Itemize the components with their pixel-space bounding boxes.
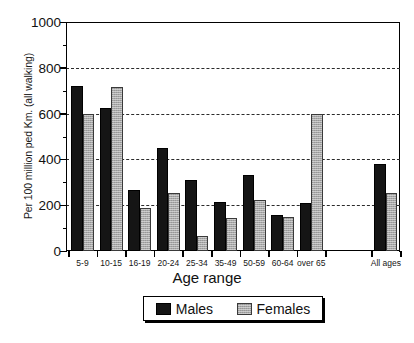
y-axis-tick-label: 200 [38, 198, 61, 213]
bar-males-25-34 [185, 180, 197, 251]
bar-males-16-19 [128, 190, 140, 251]
x-axis-tick [297, 251, 299, 257]
bar-males-5-9 [71, 86, 83, 251]
bars-layer [66, 22, 400, 251]
x-axis-tick [154, 251, 156, 257]
x-axis-tick [68, 251, 70, 257]
x-axis-label-over-65: over 65 [297, 258, 325, 268]
y-axis-tick-label: 400 [38, 152, 61, 167]
x-axis-label-35-49: 35-49 [215, 258, 237, 268]
bar-females-16-19 [140, 208, 152, 251]
y-axis-tick-label: 1000 [31, 15, 61, 30]
bar-chart-figure: Per 100 million ped Km. (all walking) 02… [0, 0, 414, 343]
bar-females-All-ages [386, 193, 398, 251]
bar-males-50-59 [243, 175, 255, 251]
x-axis-tick [325, 251, 327, 257]
x-axis-tick [240, 251, 242, 257]
bar-males-20-24 [157, 148, 169, 251]
x-axis-label-50-59: 50-59 [243, 258, 265, 268]
females-swatch-icon [237, 303, 252, 315]
bar-females-10-15 [111, 87, 123, 251]
y-axis-tick-label: 800 [38, 60, 61, 75]
bar-females-60-64 [283, 217, 295, 251]
bar-females-25-34 [197, 236, 209, 251]
bar-females-35-49 [226, 218, 238, 251]
x-axis-label-All-ages: All ages [371, 258, 401, 268]
males-swatch-icon [156, 303, 171, 315]
x-axis-tick [182, 251, 184, 257]
x-axis-title: Age range [0, 269, 414, 286]
x-axis-tick [211, 251, 213, 257]
y-axis-title: Per 100 million ped Km. (all walking) [22, 36, 34, 236]
bar-females-5-9 [83, 114, 95, 251]
x-axis-label-60-64: 60-64 [272, 258, 294, 268]
bar-males-All-ages [374, 164, 386, 251]
x-axis-tick [400, 251, 402, 257]
bar-males-over-65 [300, 203, 312, 251]
x-axis-label-20-24: 20-24 [157, 258, 179, 268]
bar-females-20-24 [168, 193, 180, 251]
bar-females-50-59 [254, 200, 266, 251]
legend-label-females: Females [257, 301, 311, 317]
x-axis-label-10-15: 10-15 [100, 258, 122, 268]
bar-females-over-65 [311, 114, 323, 251]
bar-males-35-49 [214, 202, 226, 251]
x-axis-tick [97, 251, 99, 257]
x-axis-tick [371, 251, 373, 257]
y-axis-tick-label: 600 [38, 106, 61, 121]
y-axis-tick-label: 0 [53, 244, 61, 259]
x-axis-label-25-34: 25-34 [186, 258, 208, 268]
x-axis-label-16-19: 16-19 [129, 258, 151, 268]
chart-legend: Males Females [143, 296, 323, 321]
legend-item-males: Males [156, 301, 213, 317]
x-axis-tick [125, 251, 127, 257]
bar-males-10-15 [100, 108, 112, 251]
x-axis-label-5-9: 5-9 [76, 258, 88, 268]
x-axis-tick [268, 251, 270, 257]
legend-label-males: Males [176, 301, 213, 317]
bar-males-60-64 [271, 215, 283, 251]
legend-item-females: Females [237, 301, 311, 317]
